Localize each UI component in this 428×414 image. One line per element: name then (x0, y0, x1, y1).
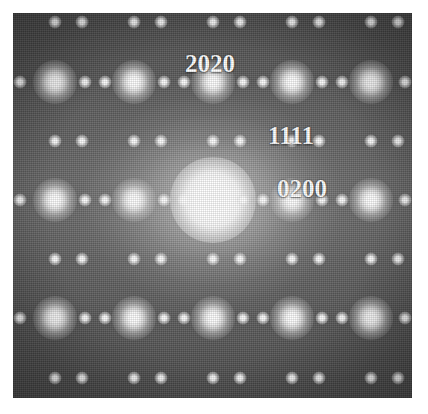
diffraction-spot (158, 312, 171, 325)
diffraction-spot (257, 194, 270, 207)
diffraction-spot (112, 178, 156, 222)
diffraction-spot (336, 194, 349, 207)
diffraction-spot (158, 76, 171, 89)
diffraction-spot (349, 296, 393, 340)
diffraction-spot (191, 296, 235, 340)
diffraction-spot (392, 16, 405, 29)
transmitted-beam-spot (170, 157, 256, 243)
diffraction-spot (234, 253, 247, 266)
diffraction-spot (392, 372, 405, 385)
diffraction-spot (14, 76, 27, 89)
diffraction-spot (365, 135, 378, 148)
diffraction-spot (76, 253, 89, 266)
diffraction-spot (270, 60, 314, 104)
diffraction-spot (313, 253, 326, 266)
diffraction-spot (257, 312, 270, 325)
diffraction-spot (49, 372, 62, 385)
diffraction-spot (399, 312, 412, 325)
diffraction-figure: 202011110200 (0, 0, 428, 414)
diffraction-spot (155, 135, 168, 148)
diffraction-spot (33, 60, 77, 104)
diffraction-spot (316, 312, 329, 325)
diffraction-spot (128, 135, 141, 148)
diffraction-spot (49, 135, 62, 148)
diffraction-spot (49, 253, 62, 266)
diffraction-spot (128, 372, 141, 385)
central-band-glow (13, 13, 412, 398)
diffraction-spot (207, 372, 220, 385)
miller-index-label-2020: 2020 (185, 51, 235, 76)
diffraction-spot (178, 194, 191, 207)
diffraction-spot (79, 76, 92, 89)
diffraction-spot (76, 16, 89, 29)
diffraction-spot (158, 194, 171, 207)
diffraction-spot (286, 135, 299, 148)
diffraction-spot (392, 253, 405, 266)
miller-index-label-1111: 1111 (268, 123, 314, 148)
diffraction-spot (365, 253, 378, 266)
diffraction-spot (207, 253, 220, 266)
diffraction-spot (270, 296, 314, 340)
diffraction-spot (392, 135, 405, 148)
diffraction-spot (286, 16, 299, 29)
diffraction-spot (237, 312, 250, 325)
diffraction-spot (207, 135, 220, 148)
diffraction-spot (313, 372, 326, 385)
diffraction-spot (99, 76, 112, 89)
miller-index-label-0200: 0200 (277, 176, 327, 201)
diffraction-spot (49, 16, 62, 29)
film-grain-texture (13, 13, 412, 398)
diffraction-spot (14, 312, 27, 325)
diffraction-spot (178, 76, 191, 89)
diffraction-spot (234, 135, 247, 148)
diffraction-spot (270, 178, 314, 222)
diffraction-spot (76, 372, 89, 385)
diffraction-spot (313, 135, 326, 148)
diffraction-spot (399, 76, 412, 89)
diffraction-spot (191, 60, 235, 104)
diffraction-spot (207, 16, 220, 29)
diffraction-spot (313, 16, 326, 29)
diffraction-spot (33, 178, 77, 222)
diffraction-spot (79, 312, 92, 325)
diffraction-spot (336, 312, 349, 325)
diffraction-spot (14, 194, 27, 207)
diffraction-spot (155, 253, 168, 266)
plate-vignette (13, 13, 412, 398)
diffraction-spot (365, 16, 378, 29)
diffraction-spot (79, 194, 92, 207)
diffraction-spot (112, 296, 156, 340)
diffraction-spot (99, 312, 112, 325)
diffraction-spot (257, 76, 270, 89)
diffraction-spot (234, 372, 247, 385)
diffraction-spot (155, 372, 168, 385)
diffraction-spot (128, 16, 141, 29)
diffraction-spot (316, 76, 329, 89)
direct-beam-halo (13, 13, 412, 398)
diffraction-spot (237, 194, 250, 207)
diffraction-spot (99, 194, 112, 207)
diffraction-spot (286, 253, 299, 266)
diffraction-spot (349, 178, 393, 222)
diffraction-spot (128, 253, 141, 266)
diffraction-spot (237, 76, 250, 89)
diffraction-spot (178, 312, 191, 325)
diffraction-spot (112, 60, 156, 104)
diffraction-spot (155, 16, 168, 29)
diffraction-plate: 202011110200 (13, 13, 412, 398)
diffraction-spot (33, 296, 77, 340)
diffraction-spot (399, 194, 412, 207)
diffraction-spot (349, 60, 393, 104)
diffraction-spot (76, 135, 89, 148)
diffraction-spot (365, 372, 378, 385)
diffraction-spot (316, 194, 329, 207)
diffraction-spot (234, 16, 247, 29)
diffraction-spot (286, 372, 299, 385)
diffraction-spot (336, 76, 349, 89)
